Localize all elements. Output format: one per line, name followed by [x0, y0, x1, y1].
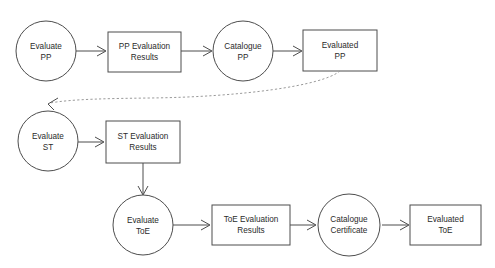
node-evaluated-pp-label-line2: PP [335, 52, 346, 61]
edge-evaluated-pp-to-evaluate-st [48, 71, 340, 110]
edge-evaluate-pp-to-results [76, 46, 106, 56]
node-evaluated-pp[interactable]: Evaluated PP [303, 30, 377, 71]
edge-toe-results-to-catalogue [290, 220, 316, 230]
edge-results-to-catalogue-pp [181, 46, 212, 56]
node-evaluate-st-label-line2: ST [43, 143, 53, 152]
node-catalogue-pp-label-line2: PP [238, 53, 249, 62]
node-evaluate-st-label-line1: Evaluate [32, 132, 64, 141]
node-st-evaluation-results[interactable]: ST Evaluation Results [106, 121, 180, 163]
flowchart-diagram: Evaluate PP PP Evaluation Results Catalo… [0, 0, 495, 268]
node-catalogue-pp-label-line1: Catalogue [224, 42, 262, 51]
node-evaluated-toe[interactable]: Evaluated ToE [410, 205, 481, 245]
node-evaluate-toe-label-line1: Evaluate [127, 216, 159, 225]
node-st-evaluation-results-label-line2: Results [129, 143, 156, 152]
edge-evaluate-st-to-results [78, 137, 104, 147]
node-catalogue-certificate-label-line2: Certificate [331, 226, 368, 235]
node-evaluated-toe-label-line2: ToE [438, 226, 453, 235]
edge-catalogue-to-evaluated-toe [382, 220, 409, 230]
node-evaluate-pp-label-line2: PP [41, 53, 52, 62]
node-evaluate-toe-label-line2: ToE [136, 227, 151, 236]
node-pp-evaluation-results-label-line2: Results [131, 53, 158, 62]
node-evaluate-pp[interactable]: Evaluate PP [16, 21, 76, 81]
diagram-canvas: Evaluate PP PP Evaluation Results Catalo… [0, 0, 495, 268]
node-toe-evaluation-results-label-line2: Results [237, 226, 264, 235]
node-evaluate-st[interactable]: Evaluate ST [18, 111, 78, 171]
edge-catalogue-pp-to-evaluated [273, 46, 302, 56]
node-st-evaluation-results-label-line1: ST Evaluation [118, 132, 169, 141]
node-toe-evaluation-results-label-line1: ToE Evaluation [224, 215, 279, 224]
node-pp-evaluation-results-label-line1: PP Evaluation [119, 42, 171, 51]
node-toe-evaluation-results[interactable]: ToE Evaluation Results [212, 205, 290, 245]
node-evaluate-toe[interactable]: Evaluate ToE [113, 195, 173, 255]
edge-st-results-to-evaluate-toe [138, 163, 148, 195]
node-evaluate-pp-label-line1: Evaluate [30, 42, 62, 51]
edge-evaluate-toe-to-results [173, 220, 210, 230]
node-pp-evaluation-results[interactable]: PP Evaluation Results [108, 32, 181, 72]
node-catalogue-pp[interactable]: Catalogue PP [213, 21, 273, 81]
node-evaluated-toe-label-line1: Evaluated [427, 215, 464, 224]
node-catalogue-certificate-label-line1: Catalogue [330, 215, 368, 224]
node-evaluated-pp-label-line1: Evaluated [322, 41, 359, 50]
node-catalogue-certificate[interactable]: Catalogue Certificate [318, 194, 380, 256]
